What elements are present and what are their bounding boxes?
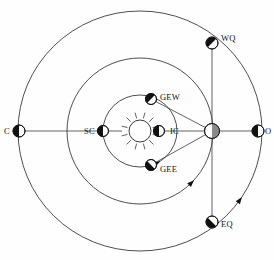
marker-greatest-elongation-west [145,93,156,104]
diagram-canvas: CSCICGEWGEEOWQEQ [0,0,274,260]
outer-orbit-direction-arrow-icon [236,196,244,205]
marker-opposition-dark-half [252,125,258,137]
earth-shaded-half [212,124,220,139]
sun-disc-icon [129,120,151,142]
sun-group [122,113,159,150]
marker-conjunction [13,125,25,137]
marker-greatest-elongation-east [145,160,156,171]
marker-greatest-elongation-west-label: GEW [160,92,180,102]
marker-conjunction-label: C [4,126,10,136]
marker-conjunction-dark-half [13,125,19,137]
marker-eastern-quadrature-label: EQ [221,219,233,229]
marker-western-quadrature [206,37,218,49]
marker-opposition-label: O [265,126,271,136]
marker-superior-conjunction-dark-half [98,126,103,137]
marker-inferior-conjunction [154,126,165,137]
marker-western-quadrature-label: WQ [221,33,236,43]
marker-superior-conjunction-label: SC [84,126,95,136]
marker-earth [205,124,220,139]
marker-superior-conjunction [98,126,109,137]
marker-greatest-elongation-east-label: GEE [160,164,177,174]
marker-eastern-quadrature [206,216,218,228]
marker-opposition [252,125,264,137]
marker-inferior-conjunction-label: IC [170,126,179,136]
